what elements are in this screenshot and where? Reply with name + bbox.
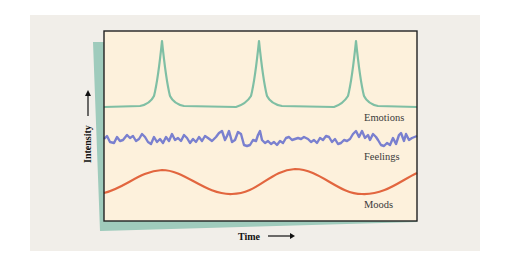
x-axis-label: Time <box>238 231 261 242</box>
label-feelings: Feelings <box>364 151 400 162</box>
chart: Emotions Feelings Moods Time Intensity <box>0 0 507 263</box>
y-axis-arrow-icon <box>85 90 91 116</box>
x-axis-arrow-icon <box>268 233 295 239</box>
label-moods: Moods <box>364 199 393 210</box>
y-axis-label: Intensity <box>82 125 93 163</box>
label-emotions: Emotions <box>364 112 404 123</box>
